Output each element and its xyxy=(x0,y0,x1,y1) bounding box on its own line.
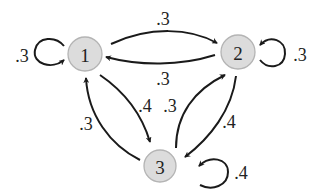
edge-label: .3 xyxy=(293,45,307,65)
node-2: 2 xyxy=(221,35,255,69)
markov-chain-diagram: .3 .3 .3 .3 .4 .3 .3 .4 .4 1 xyxy=(0,0,312,195)
edge-1-to-3: .4 xyxy=(100,75,152,142)
edge-label: .3 xyxy=(15,46,29,66)
edge-label: .3 xyxy=(156,9,170,29)
arrow-icon xyxy=(86,78,140,160)
edge-3-to-2: .3 xyxy=(163,75,225,148)
self-loop-arrow-icon xyxy=(199,159,228,187)
edge-label: .3 xyxy=(79,114,93,134)
node-1: 1 xyxy=(68,37,102,71)
edge-2-to-3: .4 xyxy=(185,76,236,157)
node-3: 3 xyxy=(144,150,176,182)
self-loop-arrow-icon xyxy=(260,39,285,66)
self-loop-arrow-icon xyxy=(35,39,64,65)
edge-label: .4 xyxy=(234,163,248,183)
arrow-icon xyxy=(176,75,225,148)
node-label: 3 xyxy=(155,157,165,178)
arrow-icon xyxy=(111,31,217,44)
node-label: 2 xyxy=(233,43,243,64)
node-label: 1 xyxy=(80,45,90,66)
edge-2-to-2: .3 xyxy=(260,39,307,66)
edge-label: .4 xyxy=(138,96,152,116)
arrow-icon xyxy=(106,55,215,64)
edge-label: .4 xyxy=(222,112,236,132)
edge-3-to-1: .3 xyxy=(79,78,140,160)
edge-1-to-2: .3 xyxy=(111,9,217,44)
edge-1-to-1: .3 xyxy=(15,39,64,66)
edge-label: .3 xyxy=(156,69,170,89)
edge-2-to-1: .3 xyxy=(106,55,215,89)
edge-3-to-3: .4 xyxy=(199,159,248,187)
edge-label: .3 xyxy=(163,96,177,116)
